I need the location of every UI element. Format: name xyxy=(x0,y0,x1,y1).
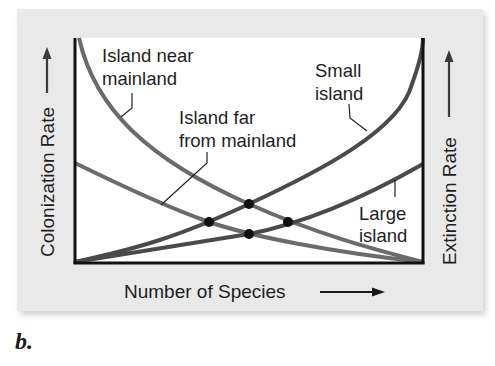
colonization-rate-arrow-icon xyxy=(43,47,52,93)
extinction-rate-label: Extinction Rate xyxy=(439,137,460,265)
equilibrium-dot xyxy=(283,217,293,227)
label-far-from-mainland-line2: from mainland xyxy=(179,130,296,151)
colonization-rate-label: Colonization Rate xyxy=(37,107,58,257)
label-small-island-line1: Small xyxy=(315,60,361,81)
label-small-island-line2: island xyxy=(315,83,363,104)
label-large-island-line2: island xyxy=(359,225,407,246)
extinction-rate-arrow-icon xyxy=(445,50,454,117)
equilibrium-dot xyxy=(204,217,214,227)
label-large-island-line1: Large xyxy=(359,203,406,224)
label-near-mainland-line1: Island near xyxy=(102,45,194,66)
number-of-species-arrow-icon xyxy=(320,288,385,297)
label-near-mainland-line2: mainland xyxy=(102,68,177,89)
label-far-from-mainland-line1: Island far xyxy=(179,107,255,128)
equilibrium-dot xyxy=(244,229,254,239)
equilibrium-dot xyxy=(244,199,254,209)
number-of-species-label: Number of Species xyxy=(124,281,286,302)
island-biogeography-diagram: Island near mainland Island far from mai… xyxy=(0,0,495,366)
figure-letter: b. xyxy=(15,328,33,355)
